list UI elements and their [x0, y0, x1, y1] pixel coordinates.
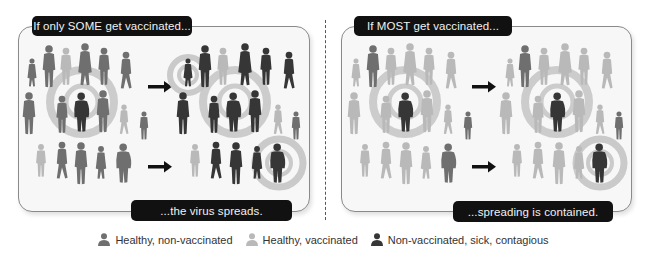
group-most-before	[348, 43, 472, 184]
legend-label: Healthy, vaccinated	[263, 234, 358, 246]
arrow-right-icon	[472, 81, 496, 173]
top-label-some: If only SOME get vaccinated...	[32, 16, 192, 36]
person-icon	[370, 233, 384, 246]
legend-label: Non-vaccinated, sick, contagious	[388, 234, 549, 246]
person-icon	[97, 233, 111, 246]
top-label-most: If MOST get vaccinated...	[354, 16, 512, 36]
bottom-label-contained: ...spreading is contained.	[453, 201, 613, 222]
legend-item-vaccinated: Healthy, vaccinated	[245, 233, 358, 246]
bottom-label-spreads: ...the virus spreads.	[131, 200, 292, 221]
legend-item-sick: Non-vaccinated, sick, contagious	[370, 233, 549, 246]
arrow-right-icon	[148, 81, 172, 173]
group-some-after	[170, 43, 303, 187]
group-most-after	[500, 43, 624, 187]
group-some-before	[23, 43, 149, 184]
person-icon	[245, 233, 259, 246]
legend-label: Healthy, non-vaccinated	[115, 234, 232, 246]
legend-item-nonvaccinated: Healthy, non-vaccinated	[97, 233, 232, 246]
legend: Healthy, non-vaccinated Healthy, vaccina…	[0, 233, 646, 246]
